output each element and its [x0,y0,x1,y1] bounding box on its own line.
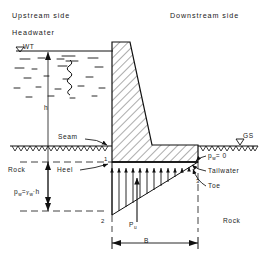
uplift-pressure-distribution [112,162,198,215]
dam-body [112,42,198,162]
headwater-water-marks [14,56,105,98]
water-wave-symbol [67,60,72,95]
pressure-head-dimension [45,162,51,211]
base-width-dimension [112,237,198,249]
diagram-canvas [0,0,264,262]
ground-surface-right [198,139,258,151]
water-table-line [16,47,113,52]
dam-uplift-pressure-diagram: Upstream side Downstream side Headwater … [0,0,264,262]
ground-surface-left [10,146,112,151]
